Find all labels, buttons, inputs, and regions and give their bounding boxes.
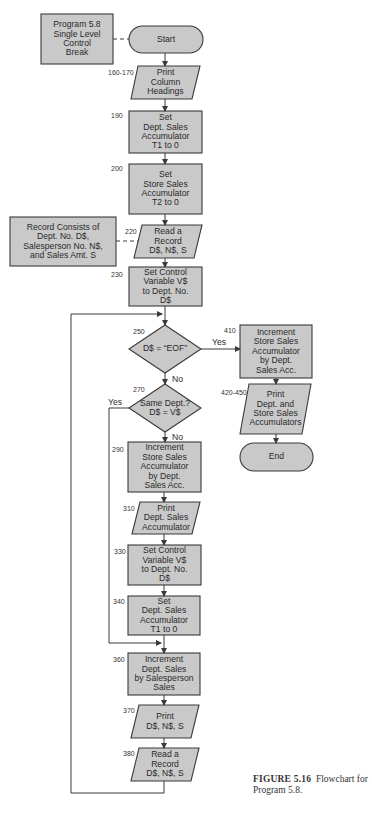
set-t1-again-text: Set Dept. Sales Accumulator T1 to 0 <box>128 596 200 635</box>
set-t2-text: Set Store Sales Accumulator T2 to 0 <box>129 164 202 214</box>
print-record-text: Print D$, N$, S <box>131 705 199 738</box>
line-label: 330 <box>114 548 126 555</box>
print-dept-text: Print Dept. Sales Accumulator <box>132 502 200 534</box>
program-note-text: Program 5.8 Single Level Control Break <box>41 14 113 64</box>
line-label: 220 <box>125 228 137 235</box>
print-headings-text: Print Column Headings <box>131 66 200 99</box>
end-text: End <box>240 443 313 471</box>
record-note-text: Record Consists of Dept. No. D$, Salespe… <box>10 217 116 266</box>
caption-text-2: Program 5.8. <box>253 785 302 795</box>
line-label: 380 <box>123 750 135 757</box>
eof-no-label: No <box>172 374 183 384</box>
figure-caption: FIGURE 5.16 Flowchart for Program 5.8. <box>253 774 368 796</box>
line-label: 250 <box>133 328 145 335</box>
read-record-2-text: Read a Record D$, N$, S <box>131 748 199 781</box>
start-text: Start <box>129 26 203 53</box>
line-label: 310 <box>123 505 135 512</box>
line-label: 230 <box>111 271 123 278</box>
line-label: 270 <box>133 386 145 393</box>
inc-store-right-text: Increment Store Sales Accumulator by Dep… <box>240 325 312 378</box>
print-accumulators-text: Print Dept. and Store Sales Accumulators <box>240 384 311 434</box>
set-t1-text: Set Dept. Sales Accumulator T1 to 0 <box>129 111 202 153</box>
same-dept-yes-label: Yes <box>108 397 122 407</box>
line-label: 200 <box>111 165 123 172</box>
inc-dept-text: Increment Dept. Sales by Salesperson Sal… <box>128 653 200 695</box>
line-label: 420-450 <box>221 389 247 396</box>
line-label: 410 <box>224 327 236 334</box>
line-label: 360 <box>113 656 125 663</box>
read-record-1-text: Read a Record D$, N$, S <box>134 225 202 258</box>
caption-text: Flowchart for <box>316 774 368 784</box>
line-label: 370 <box>123 707 135 714</box>
line-label: 290 <box>112 446 124 453</box>
eof-yes-label: Yes <box>212 337 226 347</box>
same-dept-no-label: No <box>172 432 183 442</box>
inc-store-left-text: Increment Store Sales Accumulator by Dep… <box>128 442 201 492</box>
caption-label: FIGURE 5.16 <box>253 774 311 784</box>
line-label: 340 <box>113 598 125 605</box>
set-control-1-text: Set Control Variable V$ to Dept. No. D$ <box>129 267 202 306</box>
line-label: 160-170 <box>108 69 134 76</box>
set-control-2-text: Set Control Variable V$ to Dept. No. D$ <box>128 545 201 585</box>
line-label: 190 <box>111 112 123 119</box>
